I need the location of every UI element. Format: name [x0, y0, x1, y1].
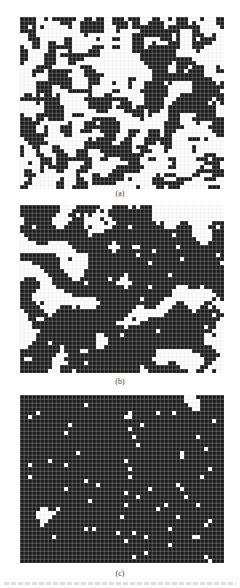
- truncated-caption: [4, 582, 236, 585]
- panel-c-lattice: [20, 395, 224, 563]
- panel-b-lattice: [20, 205, 224, 373]
- lattice-grid: [20, 395, 224, 563]
- panel-b-label: (b): [0, 377, 240, 386]
- lattice-grid: [20, 205, 224, 373]
- panel-a-label: (a): [0, 189, 240, 198]
- panel-c-label: (c): [0, 569, 240, 578]
- panel-a-lattice: [20, 17, 224, 189]
- lattice-grid: [20, 17, 224, 189]
